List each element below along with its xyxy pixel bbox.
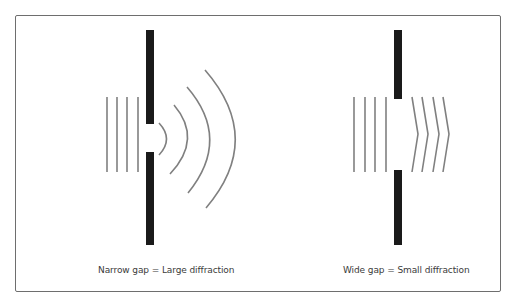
wide-gap-panel	[354, 30, 449, 245]
barrier-bottom	[394, 170, 402, 245]
incident-waves	[107, 97, 138, 172]
wide-gap-caption: Wide gap = Small diffraction	[343, 265, 470, 275]
diffracted-chevrons	[412, 97, 449, 172]
incident-waves	[354, 97, 386, 172]
barrier-bottom	[146, 152, 154, 245]
narrow-gap-caption: Narrow gap = Large diffraction	[98, 265, 234, 275]
diffraction-diagram	[0, 0, 521, 305]
narrow-gap-panel	[107, 30, 235, 245]
barrier-top	[146, 30, 154, 124]
diffracted-arcs	[159, 70, 235, 208]
barrier-top	[394, 30, 402, 99]
